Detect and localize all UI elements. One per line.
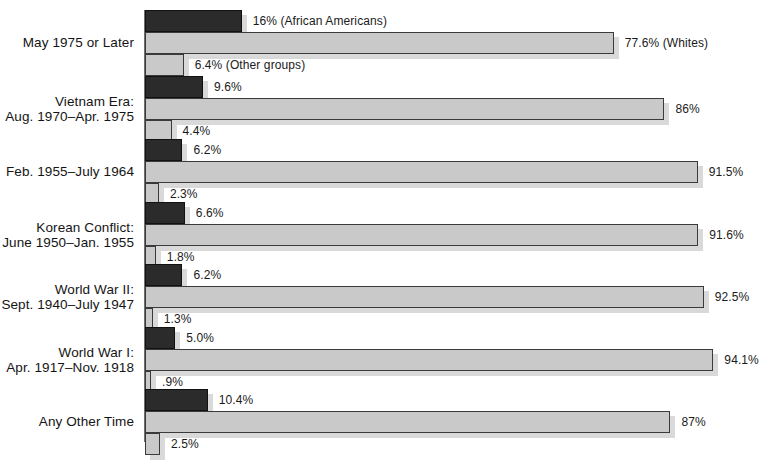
bar-value-label: 10.4% xyxy=(219,394,254,407)
bar-whites: 91.5% xyxy=(145,161,784,183)
bar-african-americans: 5.0% xyxy=(145,327,784,349)
bar-value-label: 6.4% (Other groups) xyxy=(195,59,306,72)
bar-value-label: 6.2% xyxy=(193,144,221,157)
bar-value-label: 5.0% xyxy=(186,332,214,345)
bar-value-label: 4.4% xyxy=(183,125,211,138)
bar-whites: 87% xyxy=(145,411,784,433)
bar-rect-african-americans xyxy=(145,139,182,161)
bar-value-label: .9% xyxy=(162,376,183,389)
bar-african-americans: 6.2% xyxy=(145,264,784,286)
category-label-line: Aug. 1970–Apr. 1975 xyxy=(0,109,134,125)
bar-african-americans: 6.6% xyxy=(145,202,784,224)
bar-rect-whites xyxy=(145,349,713,371)
bar-value-label: 1.8% xyxy=(167,251,195,264)
bar-whites: 92.5% xyxy=(145,286,784,308)
category-label-line: Korean Conflict: xyxy=(0,220,134,236)
bar-value-label: 6.2% xyxy=(193,269,221,282)
bar-whites: 91.6% xyxy=(145,224,784,246)
bar-whites: 86% xyxy=(145,98,784,120)
bar-african-americans: 16% (African Americans) xyxy=(145,10,784,32)
bar-rect-african-americans xyxy=(145,10,242,32)
bar-rect-whites xyxy=(145,32,614,54)
category-label: World War I:Apr. 1917–Nov. 1918 xyxy=(0,345,134,376)
bar-whites: 77.6% (Whites) xyxy=(145,32,784,54)
bar-value-label: 86% xyxy=(675,103,699,116)
bar-value-label: 94.1% xyxy=(724,354,759,367)
bar-value-label: 92.5% xyxy=(715,291,750,304)
bar-group: Vietnam Era:Aug. 1970–Apr. 19759.6%86%4.… xyxy=(0,76,784,142)
bar-rect-african-americans xyxy=(145,76,203,98)
bar-african-americans: 10.4% xyxy=(145,389,784,411)
category-label-line: Any Other Time xyxy=(0,414,134,430)
bar-group: World War I:Apr. 1917–Nov. 19185.0%94.1%… xyxy=(0,327,784,393)
bar-value-label: 91.6% xyxy=(709,229,744,242)
bar-value-label: 2.3% xyxy=(170,188,198,201)
category-label-line: Feb. 1955–July 1964 xyxy=(0,164,134,180)
bar-value-label: 2.5% xyxy=(171,438,199,451)
category-label: Feb. 1955–July 1964 xyxy=(0,164,134,180)
bar-other-groups: 6.4% (Other groups) xyxy=(145,54,784,76)
bar-group: Korean Conflict:June 1950–Jan. 19556.6%9… xyxy=(0,202,784,268)
bar-rect-whites xyxy=(145,98,664,120)
category-label: May 1975 or Later xyxy=(0,35,134,51)
category-label: Korean Conflict:June 1950–Jan. 1955 xyxy=(0,220,134,251)
category-label-line: Vietnam Era: xyxy=(0,94,134,110)
bar-other-groups: 2.5% xyxy=(145,433,784,455)
category-label-line: June 1950–Jan. 1955 xyxy=(0,235,134,251)
bar-group: May 1975 or Later16% (African Americans)… xyxy=(0,10,784,76)
category-label-line: Sept. 1940–July 1947 xyxy=(0,297,134,313)
bar-value-label: 91.5% xyxy=(709,166,744,179)
bar-value-label: 16% (African Americans) xyxy=(253,15,387,28)
category-label-line: World War II: xyxy=(0,282,134,298)
bar-rect-whites xyxy=(145,411,670,433)
bar-whites: 94.1% xyxy=(145,349,784,371)
bar-african-americans: 6.2% xyxy=(145,139,784,161)
bar-rect-whites xyxy=(145,286,704,308)
category-label-line: May 1975 or Later xyxy=(0,35,134,51)
bar-group: World War II:Sept. 1940–July 19476.2%92.… xyxy=(0,264,784,330)
bar-rect-african-americans xyxy=(145,389,208,411)
bar-african-americans: 9.6% xyxy=(145,76,784,98)
bar-rect-african-americans xyxy=(145,202,185,224)
category-label: Any Other Time xyxy=(0,414,134,430)
bar-value-label: 87% xyxy=(681,416,705,429)
bar-rect-african-americans xyxy=(145,327,175,349)
category-label: World War II:Sept. 1940–July 1947 xyxy=(0,282,134,313)
bar-rect-other-groups xyxy=(145,54,184,76)
bar-value-label: 77.6% (Whites) xyxy=(625,37,708,50)
category-label-line: World War I: xyxy=(0,345,134,361)
bar-group: Feb. 1955–July 19646.2%91.5%2.3% xyxy=(0,139,784,205)
bar-rect-whites xyxy=(145,161,698,183)
bar-rect-african-americans xyxy=(145,264,182,286)
bar-group: Any Other Time10.4%87%2.5% xyxy=(0,389,784,455)
bar-value-label: 6.6% xyxy=(196,207,224,220)
category-label-line: Apr. 1917–Nov. 1918 xyxy=(0,360,134,376)
bar-rect-whites xyxy=(145,224,698,246)
bar-rect-other-groups xyxy=(145,433,160,455)
bar-value-label: 1.3% xyxy=(164,313,192,326)
bar-value-label: 9.6% xyxy=(214,81,242,94)
category-label: Vietnam Era:Aug. 1970–Apr. 1975 xyxy=(0,94,134,125)
